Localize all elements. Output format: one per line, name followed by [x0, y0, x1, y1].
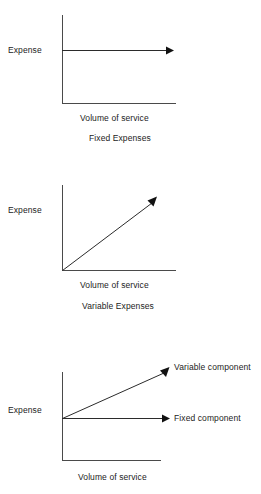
chart3-fixed-arrow-icon: [162, 415, 170, 423]
chart1-arrow-icon: [166, 47, 174, 55]
chart-variable-expenses: [62, 185, 176, 271]
chart2-series-variable-expenses: [63, 203, 153, 271]
chart-mixed-expenses: [62, 367, 170, 461]
chart2-y-axis-label: Expense: [8, 205, 42, 215]
chart3-annotation-fixed-component: Fixed component: [174, 413, 241, 423]
chart-fixed-expenses: [62, 15, 176, 104]
chart2-x-axis-label: Volume of service: [80, 280, 149, 290]
figure-canvas: Expense Volume of service Fixed Expenses…: [0, 0, 261, 494]
chart1-caption: Fixed Expenses: [89, 133, 151, 143]
chart3-series-variable-component: [63, 373, 165, 419]
chart3-annotation-variable-component: Variable component: [174, 362, 251, 372]
chart2-caption: Variable Expenses: [82, 301, 154, 311]
chart3-x-axis-label: Volume of service: [78, 472, 147, 482]
chart1-x-axis-label: Volume of service: [80, 113, 149, 123]
chart1-y-axis-label: Expense: [8, 45, 42, 55]
chart3-variable-arrow-icon: [160, 367, 170, 377]
chart3-y-axis-label: Expense: [8, 405, 42, 415]
